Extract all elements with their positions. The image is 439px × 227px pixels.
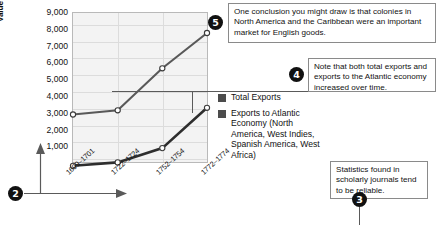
y-tick-9000: 9,000 [34,8,68,16]
legend-label-total-exports: Total Exports [231,92,281,103]
legend-item-atlantic-economy: Exports to Atlantic Economy (North Ameri… [218,108,330,161]
callout-2-arrows [23,142,153,212]
legend-swatch-atlantic-economy [218,110,226,118]
callout-4-leader-vertical [192,91,193,113]
markers-total-exports [70,30,209,117]
y-tick-3000: 3,000 [34,109,68,117]
callout-5-box: One conclusion you might draw is that co… [228,3,436,43]
callout-3-box: Statistics found in scholarly journals t… [330,161,428,199]
legend-item-total-exports: Total Exports [218,92,330,103]
y-tick-5000: 5,000 [34,75,68,83]
y-tick-7000: 7,000 [34,42,68,50]
line-total-exports [73,33,207,115]
legend-swatch-total-exports [218,94,226,102]
callout-2-badge: 2 [8,186,23,201]
callout-4-badge: 4 [289,67,304,82]
y-tick-8000: 8,000 [34,25,68,33]
chart-figure: Value (Thousands of Pounds Sterling) 9,0… [0,0,439,227]
y-tick-2000: 2,000 [34,126,68,134]
callout-3-badge: 3 [352,192,367,207]
callout-3-leader [359,207,360,225]
chart-legend: Total Exports Exports to Atlantic Econom… [218,92,330,166]
callout-4-box: Note that both total exports and exports… [308,58,436,92]
callout-5-badge: 5 [208,15,223,30]
legend-label-atlantic-economy: Exports to Atlantic Economy (North Ameri… [231,108,323,161]
y-tick-4000: 4,000 [34,92,68,100]
y-axis-title: Value (Thousands of Pounds Sterling) [0,0,5,22]
callout-4-leader-horizontal [112,91,309,92]
y-tick-6000: 6,000 [34,58,68,66]
series-lines [72,12,208,163]
